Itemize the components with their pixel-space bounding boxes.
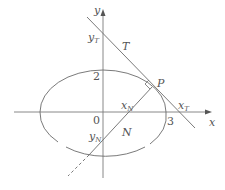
y-tick-2: 2 <box>93 71 100 82</box>
point-p-label: P <box>157 78 164 89</box>
diagram-canvas <box>0 0 225 190</box>
normal-line-extension <box>68 155 89 176</box>
diagram: y x yT T 2 P xN xT 0 3 yN N <box>0 0 225 190</box>
tangent-x-intercept-label: xT <box>178 100 189 113</box>
x-axis-arrow-icon <box>205 110 212 115</box>
y-axis-arrow-icon <box>101 9 106 16</box>
origin-label: 0 <box>93 115 100 126</box>
ellipse-lower-arc <box>150 112 166 144</box>
tangent-label: T <box>122 41 129 52</box>
normal-label: N <box>122 127 132 138</box>
ellipse-lower-arc <box>66 147 145 156</box>
y-axis-label: y <box>94 5 100 16</box>
tangent-y-intercept-label: yT <box>88 32 99 45</box>
ellipse-lower-arc <box>40 112 58 142</box>
normal-x-intercept-label: xN <box>121 100 133 113</box>
x-tick-3: 3 <box>167 116 174 127</box>
normal-y-intercept-label: yN <box>89 131 101 144</box>
x-axis-label: x <box>209 117 215 128</box>
